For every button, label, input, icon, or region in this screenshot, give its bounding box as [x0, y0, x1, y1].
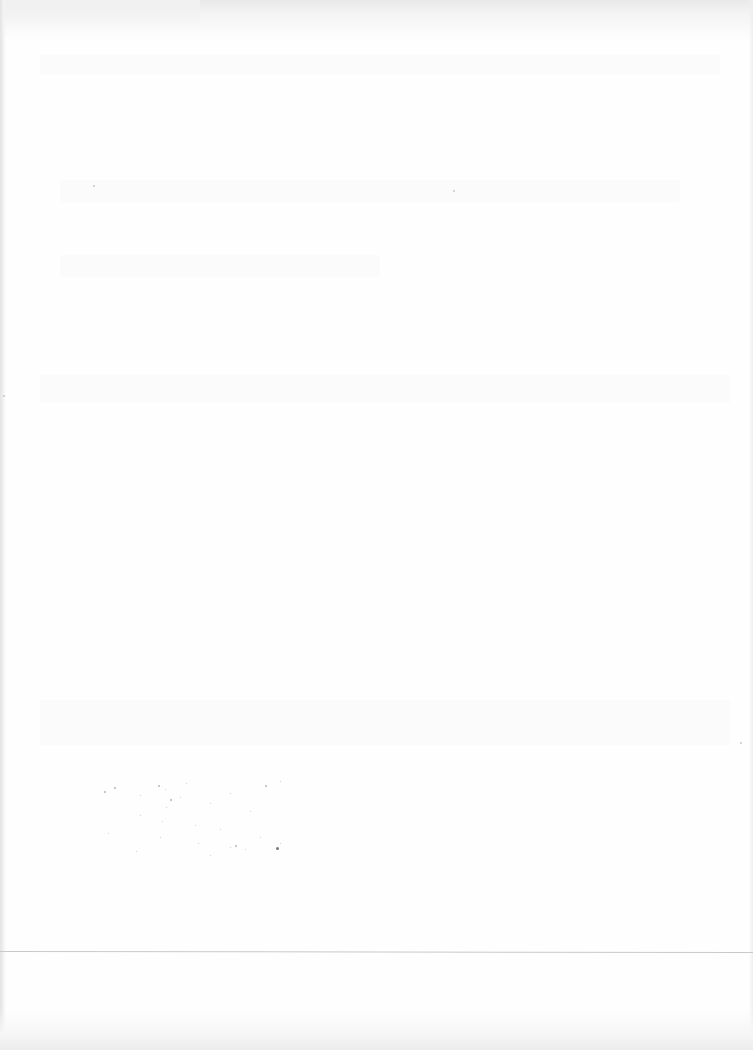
right-page-edge	[749, 0, 753, 1050]
scan-speck	[3, 395, 5, 397]
bleed-through-line	[40, 375, 730, 403]
scan-speck	[740, 742, 742, 744]
scanned-page	[0, 0, 753, 1050]
scan-speck	[453, 190, 455, 192]
bleed-through-line	[40, 55, 720, 75]
left-page-edge	[0, 0, 6, 1050]
top-left-scan-shadow	[0, 0, 200, 28]
bottom-scan-shadow	[0, 1010, 753, 1050]
bleed-through-line	[60, 180, 680, 202]
scan-speck	[93, 185, 95, 187]
horizontal-rule	[0, 951, 753, 953]
bleed-through-line	[60, 255, 380, 277]
scan-speckle-cluster	[100, 785, 315, 880]
bleed-through-line	[40, 700, 730, 745]
